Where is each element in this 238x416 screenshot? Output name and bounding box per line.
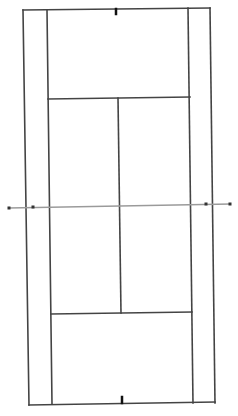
tennis-court-diagram: [0, 0, 238, 416]
net-post-2: [32, 206, 35, 209]
court-canvas: [0, 0, 238, 416]
net-post-3: [205, 203, 208, 206]
net-post-4: [229, 203, 232, 206]
net-post-1: [8, 207, 11, 210]
